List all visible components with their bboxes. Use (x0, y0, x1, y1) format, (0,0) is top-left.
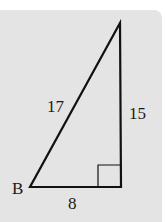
right-angle-marker (98, 165, 121, 187)
vertex-b-label: B (12, 179, 23, 198)
vertical-leg-label: 15 (129, 104, 146, 123)
triangle (30, 23, 121, 187)
triangle-diagram: 17 15 8 B (0, 0, 166, 222)
horizontal-leg-label: 8 (68, 194, 77, 213)
hypotenuse-label: 17 (47, 97, 65, 116)
